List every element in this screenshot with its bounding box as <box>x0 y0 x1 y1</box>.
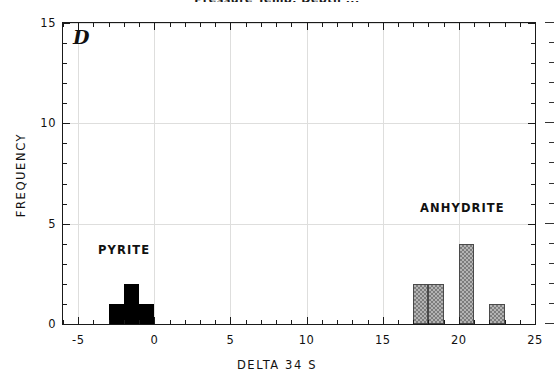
histogram-bar-anhydrite <box>428 284 443 324</box>
x-axis-minor-tick <box>215 320 216 324</box>
x-axis-minor-tick-top <box>352 23 353 27</box>
x-axis-minor-tick <box>276 320 277 324</box>
y-axis-tick-label: 15 <box>22 16 56 30</box>
x-axis-minor-tick-top <box>109 23 110 27</box>
x-axis-minor-tick <box>489 320 490 324</box>
x-axis-tick-label: 0 <box>134 333 174 347</box>
x-axis-tick-label: 25 <box>515 333 554 347</box>
x-axis-minor-tick-top <box>489 23 490 27</box>
y-axis-minor-tick <box>63 244 67 245</box>
x-axis-major-tick-top <box>230 23 231 30</box>
adjacent-panel-tick <box>549 283 554 284</box>
adjacent-panel-tick <box>549 183 554 184</box>
y-axis-minor-tick-right <box>531 143 535 144</box>
x-axis-minor-tick <box>200 320 201 324</box>
x-axis-minor-tick-top <box>139 23 140 27</box>
gridline-vertical <box>307 23 308 324</box>
x-axis-tick-label: 10 <box>287 333 327 347</box>
y-axis-minor-tick <box>63 284 67 285</box>
adjacent-panel-tick <box>549 263 554 264</box>
x-axis-minor-tick-top <box>444 23 445 27</box>
x-axis-minor-tick <box>93 320 94 324</box>
adjacent-panel-tick <box>549 243 554 244</box>
x-axis-minor-tick <box>170 320 171 324</box>
adjacent-panel-tick <box>549 203 554 204</box>
x-axis-major-tick-top <box>307 23 308 30</box>
gridline-vertical <box>154 23 155 324</box>
histogram-bar-anhydrite <box>489 304 504 324</box>
x-axis-minor-tick <box>505 320 506 324</box>
x-axis-minor-tick-top <box>185 23 186 27</box>
x-axis-minor-tick <box>352 320 353 324</box>
gridline-vertical <box>230 23 231 324</box>
y-axis-minor-tick-right <box>531 184 535 185</box>
x-axis-major-tick-top <box>459 23 460 30</box>
x-axis-minor-tick-top <box>170 23 171 27</box>
histogram-bar-pyrite <box>139 304 154 324</box>
histogram-bar-pyrite <box>109 304 124 324</box>
x-axis-minor-tick-top <box>200 23 201 27</box>
x-axis-minor-tick-top <box>291 23 292 27</box>
x-axis-minor-tick-top <box>322 23 323 27</box>
x-axis-minor-tick-top <box>93 23 94 27</box>
x-axis-tick-label: 20 <box>439 333 479 347</box>
y-axis-major-tick-right <box>528 324 535 325</box>
x-axis-minor-tick <box>398 320 399 324</box>
x-axis-minor-tick <box>322 320 323 324</box>
x-axis-minor-tick <box>428 320 429 324</box>
x-axis-major-tick-top <box>535 23 536 30</box>
plot-area <box>62 22 536 325</box>
x-axis-major-tick <box>154 317 155 324</box>
y-axis-title: FREQUENCY <box>14 85 28 265</box>
y-axis-major-tick <box>63 23 70 24</box>
x-axis-minor-tick <box>474 320 475 324</box>
x-axis-major-tick <box>307 317 308 324</box>
x-axis-tick-label: -5 <box>58 333 98 347</box>
adjacent-panel-tick <box>549 142 554 143</box>
y-axis-minor-tick <box>63 43 67 44</box>
gridline-horizontal <box>63 224 535 225</box>
x-axis-minor-tick <box>124 320 125 324</box>
adjacent-panel-tick <box>549 62 554 63</box>
x-axis-minor-tick <box>413 320 414 324</box>
x-axis-minor-tick-top <box>246 23 247 27</box>
y-axis-major-tick <box>63 324 70 325</box>
y-axis-minor-tick-right <box>531 284 535 285</box>
x-axis-minor-tick <box>368 320 369 324</box>
gridline-horizontal <box>63 23 535 24</box>
figure-panel-d: Pressure Temp. Depth ... D PYRITE ANHYDR… <box>0 0 554 379</box>
x-axis-major-tick-top <box>154 23 155 30</box>
x-axis-major-tick-top <box>383 23 384 30</box>
x-axis-minor-tick <box>246 320 247 324</box>
adjacent-panel-edge-ticks <box>540 22 554 325</box>
x-axis-minor-tick-top <box>215 23 216 27</box>
adjacent-panel-tick <box>545 323 554 324</box>
x-axis-major-tick <box>535 317 536 324</box>
x-axis-minor-tick-top <box>474 23 475 27</box>
adjacent-panel-tick <box>549 162 554 163</box>
x-axis-minor-tick <box>139 320 140 324</box>
y-axis-major-tick-right <box>528 123 535 124</box>
y-axis-tick-label: 0 <box>22 317 56 331</box>
y-axis-major-tick <box>63 224 70 225</box>
y-axis-minor-tick-right <box>531 304 535 305</box>
adjacent-panel-tick <box>545 122 554 123</box>
y-axis-minor-tick-right <box>531 83 535 84</box>
series-label-pyrite: PYRITE <box>98 243 150 257</box>
adjacent-panel-tick <box>545 223 554 224</box>
y-axis-tick-label: 10 <box>22 116 56 130</box>
x-axis-minor-tick-top <box>413 23 414 27</box>
panel-letter: D <box>73 26 89 48</box>
y-axis-major-tick <box>63 123 70 124</box>
y-axis-minor-tick <box>63 184 67 185</box>
x-axis-minor-tick <box>337 320 338 324</box>
y-axis-minor-tick <box>63 83 67 84</box>
adjacent-panel-tick <box>549 303 554 304</box>
x-axis-minor-tick-top <box>276 23 277 27</box>
x-axis-minor-tick-top <box>398 23 399 27</box>
x-axis-minor-tick <box>520 320 521 324</box>
x-axis-major-tick <box>459 317 460 324</box>
y-axis-minor-tick <box>63 163 67 164</box>
gridline-vertical <box>78 23 79 324</box>
adjacent-panel-tick <box>549 42 554 43</box>
